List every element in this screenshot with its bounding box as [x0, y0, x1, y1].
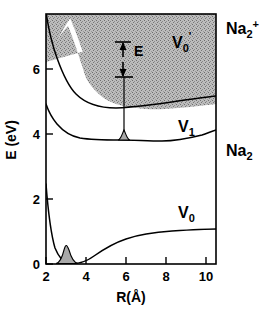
y-axis-tick-labels: 0 2 4 6 — [33, 62, 41, 272]
x-axis-title: R(Å) — [116, 289, 146, 305]
species-label-na2: Na2 — [226, 142, 253, 162]
wavepacket-ground-state — [56, 245, 78, 263]
curve-label-v1: V1 — [178, 118, 195, 138]
wavepackets — [56, 130, 130, 264]
y-tick-label: 0 — [33, 257, 40, 272]
y-tick-label: 6 — [33, 62, 40, 77]
wavepacket-excited-state — [118, 130, 130, 140]
x-tick-label: 2 — [42, 269, 49, 284]
y-axis-title: E (eV) — [3, 120, 19, 160]
y-tick-label: 4 — [33, 127, 41, 142]
x-tick-label: 4 — [82, 269, 90, 284]
ionization-continuum-region — [46, 14, 216, 109]
figure-container: E 2 4 6 8 10 0 2 4 6 R(Å) E (eV) V0' V1 — [0, 0, 271, 309]
x-tick-label: 8 — [162, 269, 169, 284]
species-label-na2-cation: Na2+ — [226, 18, 259, 40]
y-tick-label: 2 — [33, 192, 40, 207]
energy-arrow-label: E — [134, 43, 143, 59]
potential-energy-curves-plot: E 2 4 6 8 10 0 2 4 6 R(Å) E (eV) V0' V1 — [0, 0, 271, 309]
x-tick-label: 6 — [122, 269, 129, 284]
x-axis-tick-labels: 2 4 6 8 10 — [42, 269, 213, 284]
curve-label-v0-ground: V0 — [178, 204, 195, 224]
x-tick-label: 10 — [199, 269, 213, 284]
